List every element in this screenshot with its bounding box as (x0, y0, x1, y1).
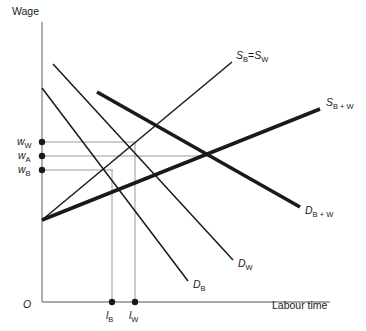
y-tick-sub-w-a: A (26, 155, 31, 164)
y-axis-title: Wage (12, 6, 39, 17)
supply-sum-sub: B + W (333, 102, 354, 111)
tick-marker-w-w (39, 139, 45, 145)
tick-marker-w-a (39, 153, 45, 159)
x-tick-label-l-w: lW (129, 310, 138, 321)
x-tick-sub-l-b: B (108, 315, 113, 324)
x-tick-sub-l-w: W (131, 315, 138, 324)
y-tick-label-w-a: wA (18, 150, 31, 161)
tick-marker-l-w (132, 299, 138, 305)
curve-demand-w (53, 64, 233, 260)
demand-w-base: D (238, 257, 246, 269)
y-tick-base-w-w: w (17, 135, 25, 147)
demand-b-sub: B (201, 284, 206, 293)
tick-marker-w-b (39, 167, 45, 173)
demand-w-sub: W (246, 263, 253, 272)
x-tick-label-l-b: lB (106, 310, 113, 321)
supply-sum-base: S (326, 96, 333, 108)
curve-supply-b-equals-w (42, 62, 232, 220)
curve-label-supply-b-equals-w: SB=SW (236, 50, 268, 61)
y-tick-sub-w-b: B (26, 169, 31, 178)
wage-labour-diagram: Wage Labour time O wW wA wB lB lW SB=SW … (0, 0, 366, 331)
tick-marker-l-b (109, 299, 115, 305)
supply-eq-sub-1: B (243, 55, 248, 64)
curve-label-demand-b-plus-w: DB + W (305, 205, 333, 216)
y-tick-label-w-b: wB (18, 164, 31, 175)
y-tick-base-w-b: w (18, 163, 26, 175)
demand-sum-sub: B + W (313, 210, 334, 219)
x-axis-title: Labour time (272, 300, 327, 311)
demand-b-base: D (193, 278, 201, 290)
y-tick-label-w-w: wW (17, 136, 32, 147)
curve-label-supply-b-plus-w: SB + W (326, 97, 354, 108)
curve-label-demand-b: DB (193, 279, 206, 290)
curve-label-demand-w: DW (238, 258, 253, 269)
supply-eq-base-1: S (236, 49, 243, 61)
demand-sum-base: D (305, 204, 313, 216)
plot-area (0, 0, 366, 331)
origin-label: O (23, 299, 31, 310)
y-tick-base-w-a: w (18, 149, 26, 161)
supply-eq-sub-2: W (261, 55, 268, 64)
